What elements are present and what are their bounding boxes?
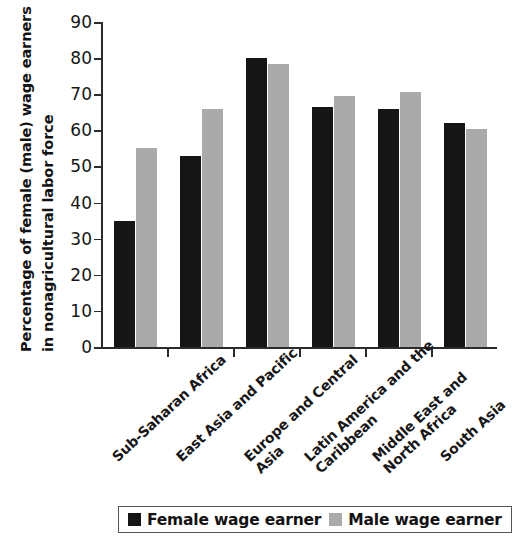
bar <box>268 64 289 347</box>
y-tick-mark <box>94 22 101 24</box>
bar <box>312 107 333 347</box>
bar <box>444 123 465 347</box>
y-tick-label: 30 <box>70 229 92 249</box>
bar <box>136 148 157 347</box>
legend-color-swatch <box>329 513 342 526</box>
x-tick-label-line-1: Sub-Saharan Africa <box>109 352 229 465</box>
bar <box>180 156 201 347</box>
legend-entry-female: Female wage earner <box>128 511 321 529</box>
bar <box>334 96 355 347</box>
y-axis-title: Percentage of female (male) wage earners… <box>0 0 56 360</box>
chart-legend: Female wage earnerMale wage earner <box>118 506 512 533</box>
plot-area: 0102030405060708090 <box>101 22 497 349</box>
bar <box>378 109 399 347</box>
y-tick-mark <box>94 166 101 168</box>
y-tick-label: 70 <box>70 84 92 104</box>
legend-color-swatch <box>128 513 141 526</box>
y-tick-mark <box>94 94 101 96</box>
plot-background <box>101 22 497 349</box>
bar <box>400 92 421 347</box>
bar <box>202 109 223 347</box>
y-tick-label: 10 <box>70 301 92 321</box>
bar <box>114 221 135 347</box>
y-tick-mark <box>94 58 101 60</box>
bar <box>466 129 487 347</box>
y-tick-mark <box>94 130 101 132</box>
x-tick-mark <box>167 349 169 357</box>
x-tick-mark <box>233 349 235 357</box>
x-tick-mark <box>365 349 367 357</box>
y-tick-mark <box>94 311 101 313</box>
legend-entry-male: Male wage earner <box>329 511 502 529</box>
x-axis-tick-labels: Sub-Saharan AfricaEast Asia and PacificE… <box>101 357 510 487</box>
y-axis-title-line-2: in nonagricultural labor force <box>40 115 56 352</box>
y-tick-label: 40 <box>70 193 92 213</box>
y-tick-mark <box>94 239 101 241</box>
x-tick-label: Sub-Saharan Africa <box>109 352 229 465</box>
y-tick-label: 90 <box>70 12 92 32</box>
bar <box>246 58 267 347</box>
y-tick-label: 20 <box>70 265 92 285</box>
y-tick-mark <box>94 275 101 277</box>
y-tick-label: 80 <box>70 48 92 68</box>
y-tick-label: 60 <box>70 120 92 140</box>
y-tick-mark <box>94 347 101 349</box>
y-axis-title-line-1: Percentage of female (male) wage earners <box>18 6 34 352</box>
y-tick-mark <box>94 203 101 205</box>
legend-label: Male wage earner <box>348 511 502 529</box>
y-tick-label: 50 <box>70 156 92 176</box>
y-tick-label: 0 <box>81 337 92 357</box>
y-axis-line <box>101 22 103 349</box>
legend-label: Female wage earner <box>147 511 321 529</box>
